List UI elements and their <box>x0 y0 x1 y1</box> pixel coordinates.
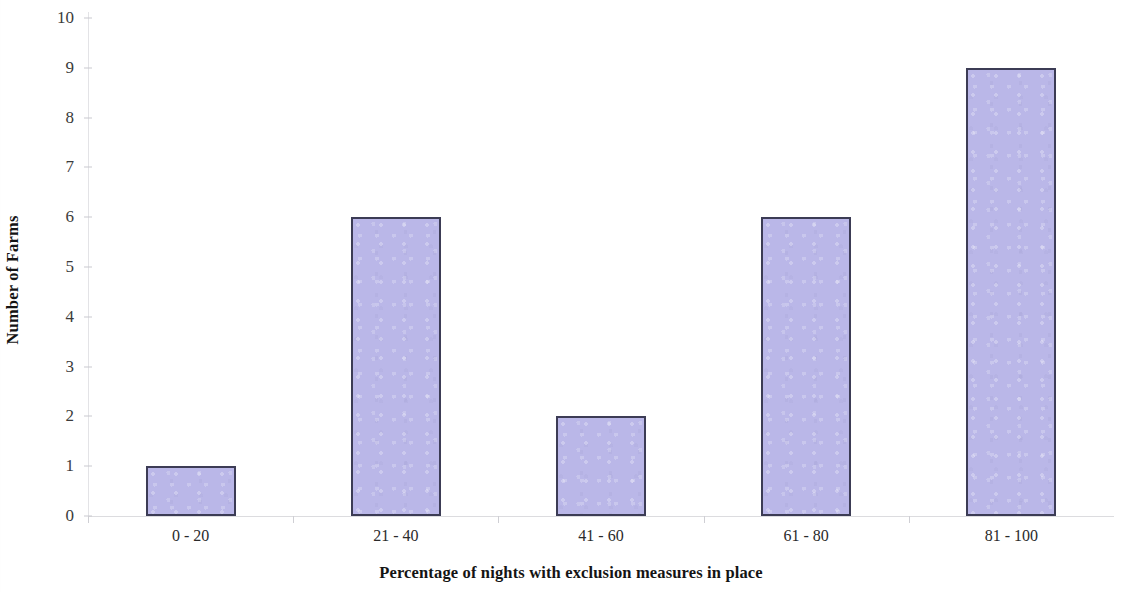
y-tick-label: 3 <box>40 357 74 377</box>
y-tick-label: 0 <box>40 506 74 526</box>
y-tick-label: 10 <box>40 8 74 28</box>
plot-area <box>88 12 1114 516</box>
x-tick-label: 0 - 20 <box>111 527 271 545</box>
x-tick-mark <box>293 516 294 523</box>
x-tick-label: 21 - 40 <box>316 527 476 545</box>
x-tick-mark <box>909 516 910 523</box>
bar <box>146 466 236 516</box>
y-tick-label: 2 <box>40 406 74 426</box>
x-axis-title: Percentage of nights with exclusion meas… <box>0 563 1142 583</box>
bar-chart: Number of Farms 012345678910 0 - 2021 - … <box>0 0 1142 592</box>
y-tick-mark <box>84 267 92 268</box>
bar <box>351 217 441 516</box>
x-tick-mark <box>498 516 499 523</box>
bar <box>556 416 646 516</box>
x-tick-label: 61 - 80 <box>726 527 886 545</box>
x-tick-mark <box>704 516 705 523</box>
y-tick-mark <box>84 18 92 19</box>
x-tick-label: 81 - 100 <box>931 527 1091 545</box>
y-axis-tick-labels: 012345678910 <box>40 0 74 592</box>
y-tick-label: 5 <box>40 257 74 277</box>
y-tick-label: 1 <box>40 456 74 476</box>
y-tick-label: 6 <box>40 207 74 227</box>
y-tick-label: 8 <box>40 108 74 128</box>
x-tick-label: 41 - 60 <box>521 527 681 545</box>
y-tick-mark <box>84 167 92 168</box>
y-tick-label: 9 <box>40 58 74 78</box>
y-tick-mark <box>84 416 92 417</box>
y-tick-label: 7 <box>40 157 74 177</box>
y-tick-mark <box>84 117 92 118</box>
bar <box>966 68 1056 516</box>
y-tick-mark <box>84 217 92 218</box>
y-tick-mark <box>84 366 92 367</box>
y-tick-mark <box>84 466 92 467</box>
bar <box>761 217 851 516</box>
y-tick-label: 4 <box>40 307 74 327</box>
x-axis-line <box>88 516 1114 517</box>
y-axis-title: Number of Farms <box>3 145 23 415</box>
y-tick-mark <box>84 67 92 68</box>
y-tick-mark <box>84 316 92 317</box>
x-tick-mark <box>88 516 89 523</box>
